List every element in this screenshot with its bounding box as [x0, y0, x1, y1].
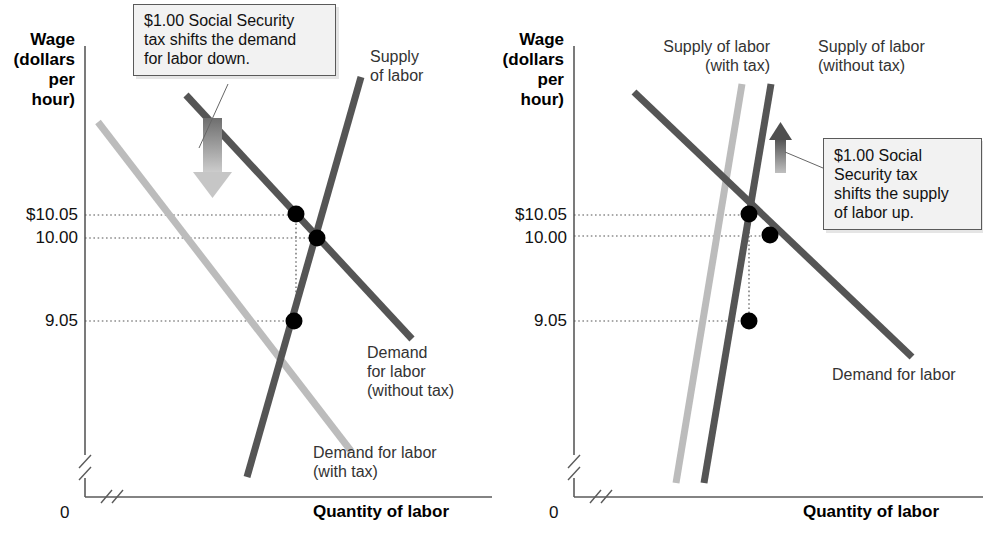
equilibrium-dot-1000-b [762, 227, 779, 244]
panel-b-y-axis-title: Wage (dollars per hour) [489, 30, 564, 110]
figure-container: Wage (dollars per hour) $10.05 10.00 9.0… [0, 0, 983, 548]
curve-supply-without-tax [704, 84, 771, 483]
panel-a-axes [79, 46, 492, 503]
equilibrium-dot-1000-a [309, 230, 326, 247]
curve-demand-with-tax [98, 122, 351, 451]
panel-a-y-axis-title: Wage (dollars per hour) [0, 30, 75, 110]
panel-a-label-demand-without-tax: Demand for labor (without tax) [367, 343, 454, 400]
panel-a-tick-1000: 10.00 [0, 229, 78, 247]
panel-a-label-demand-with-tax: Demand for labor (with tax) [313, 443, 437, 481]
panel-b-tick-1000: 10.00 [489, 229, 567, 247]
panel-a-tick-1005: $10.05 [0, 206, 78, 224]
panel-a-callout: $1.00 Social Security tax shifts the dem… [133, 4, 336, 76]
panel-a-origin-label: 0 [60, 503, 69, 523]
panel-b-tick-1005: $10.05 [489, 206, 567, 224]
panel-b-tick-905: 9.05 [489, 312, 567, 330]
equilibrium-dot-905-a [286, 313, 303, 330]
callout-leader-line-right [785, 152, 823, 168]
panel-a-label-supply: Supply of labor [370, 47, 423, 85]
panel-b-axes [568, 46, 983, 503]
panel-b-callout: $1.00 Social Security tax shifts the sup… [823, 138, 982, 230]
panel-b-label-demand: Demand for labor [832, 365, 956, 384]
panel-b-origin-label: 0 [549, 503, 558, 523]
equilibrium-dot-1005-a [288, 206, 305, 223]
shift-arrow-up-icon [769, 122, 792, 173]
shift-arrow-down-icon [193, 118, 232, 198]
panel-b-label-supply-with-tax: Supply of labor (with tax) [600, 37, 770, 75]
panel-b-label-supply-without-tax: Supply of labor (without tax) [818, 37, 925, 75]
panel-a-x-axis-title: Quantity of labor [313, 502, 449, 522]
panel-a-tick-905: 9.05 [0, 312, 78, 330]
curve-supply-labor [247, 77, 361, 477]
panel-b-x-axis-title: Quantity of labor [803, 502, 939, 522]
equilibrium-dot-1005-b [741, 206, 758, 223]
equilibrium-dot-905-b [741, 313, 758, 330]
panel-a-dotted-guides [85, 215, 317, 321]
